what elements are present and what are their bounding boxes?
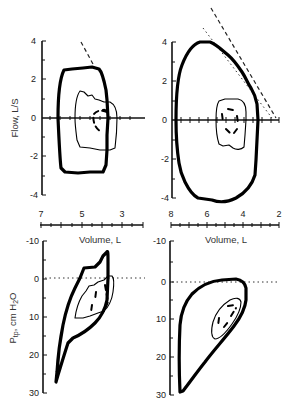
- tick-label: 8: [168, 209, 173, 219]
- tick-label: 0: [34, 274, 39, 284]
- predicted-flow-dotted-line: [203, 28, 272, 118]
- resting-flow-loop-segment: [237, 116, 238, 123]
- tick-label: -2: [30, 151, 38, 161]
- volume-axis-title-left: Volume, L: [79, 234, 121, 245]
- tick-label: 6: [204, 209, 209, 219]
- tick-label: 7: [38, 209, 43, 219]
- resting-pressure-loop-segment: [224, 322, 228, 327]
- resting-flow-loop-right: [228, 109, 233, 110]
- panel-bottom-left: 7 5 3 Volume, L -10 0 10 20 30 Ptp, cm H…: [7, 209, 145, 398]
- exercise-flow-loop: [75, 91, 117, 150]
- tick-label: 2: [276, 209, 281, 219]
- resting-flow-loop-segment: [222, 114, 223, 122]
- tick-label: 0: [162, 115, 167, 125]
- tick-label: -2: [161, 154, 169, 164]
- tick-label: 10: [156, 314, 166, 324]
- tick-label: 4: [31, 36, 36, 46]
- volume-axis-title-right: Volume, L: [205, 234, 247, 245]
- tick-label: 5: [79, 209, 84, 219]
- predicted-flow-line: [81, 42, 93, 64]
- tick-label: 4: [240, 209, 245, 219]
- max-pressure-volume-loop: [56, 252, 108, 382]
- tick-label: -4: [161, 193, 169, 203]
- resting-flow-loop-segment: [234, 129, 237, 133]
- exercise-pressure-loop-right: [212, 298, 241, 339]
- resting-pressure-loop-segment: [231, 308, 236, 316]
- resting-pressure-loop-segment: [218, 318, 219, 326]
- resting-pressure-loop-right: [228, 305, 234, 306]
- tick-label: 4: [162, 37, 167, 47]
- figure-canvas: 4 2 0 -2 -4 Flow, L/S: [0, 0, 297, 412]
- tick-label: 10: [29, 312, 39, 322]
- panel-bottom-right: 8 6 4 2 Volume, L -10 0 10 20 30: [153, 209, 282, 400]
- tick-label: 2: [162, 76, 167, 86]
- tick-label: 0: [31, 113, 36, 123]
- tick-label: -4: [30, 190, 38, 200]
- tick-label: 30: [156, 390, 166, 400]
- tick-label: 30: [29, 388, 39, 398]
- tick-label: 0: [161, 277, 166, 287]
- tick-label: -10: [26, 236, 39, 246]
- tick-label: 20: [29, 350, 39, 360]
- flow-axis-title: Flow, L/S: [9, 98, 20, 137]
- panel-top-left: 4 2 0 -2 -4 Flow, L/S: [9, 36, 145, 200]
- exercise-flow-loop-right: [216, 99, 246, 149]
- tick-label: 3: [119, 209, 124, 219]
- resting-pressure-loop-segment: [91, 305, 92, 312]
- resting-flow-loop: [93, 111, 107, 131]
- tick-label: 20: [156, 352, 166, 362]
- tick-label: -10: [153, 236, 166, 246]
- pressure-axis-title: Ptp, cm H2O: [7, 293, 20, 344]
- tick-label: 2: [31, 74, 36, 84]
- svg-text:Ptp, cm H2O: Ptp, cm H2O: [7, 293, 20, 344]
- panel-top-right: 4 2 0 -2 -4: [161, 8, 279, 203]
- resting-pressure-loop: [95, 292, 96, 300]
- resting-flow-loop-segment: [226, 129, 230, 133]
